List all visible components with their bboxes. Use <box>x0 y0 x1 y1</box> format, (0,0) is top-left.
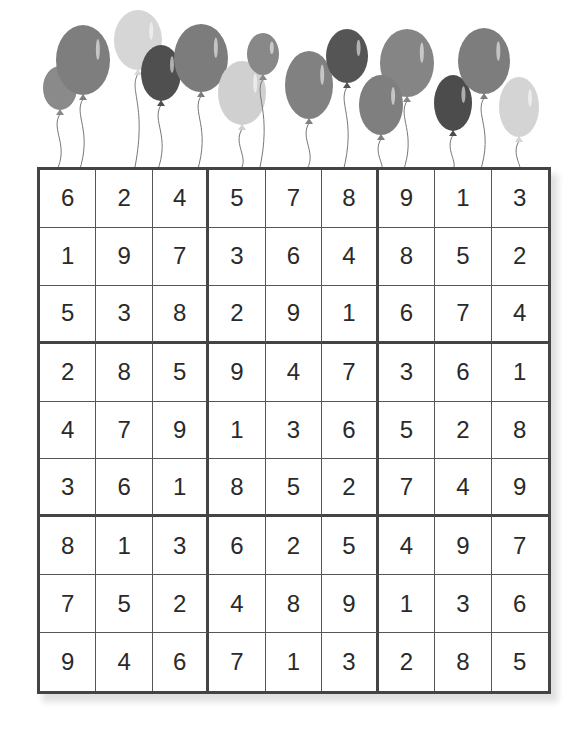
sudoku-cell-r1-c7[interactable]: 9 <box>379 170 435 228</box>
sudoku-cell-r2-c6[interactable]: 4 <box>322 228 378 286</box>
sudoku-cell-r9-c1[interactable]: 9 <box>40 633 96 691</box>
sudoku-cell-r5-c1[interactable]: 4 <box>40 402 96 460</box>
sudoku-cell-r9-c9[interactable]: 5 <box>492 633 548 691</box>
sudoku-cell-r5-c3[interactable]: 9 <box>153 402 209 460</box>
sudoku-cell-r8-c4[interactable]: 4 <box>209 575 265 633</box>
sudoku-cell-r4-c4[interactable]: 9 <box>209 344 265 402</box>
sudoku-cell-r7-c9[interactable]: 7 <box>492 517 548 575</box>
balloons-decoration <box>0 0 574 172</box>
sudoku-cell-r1-c2[interactable]: 2 <box>96 170 152 228</box>
sudoku-cell-r9-c6[interactable]: 3 <box>322 633 378 691</box>
sudoku-cell-r6-c4[interactable]: 8 <box>209 459 265 517</box>
sudoku-cell-r4-c3[interactable]: 5 <box>153 344 209 402</box>
sudoku-cell-r7-c4[interactable]: 6 <box>209 517 265 575</box>
sudoku-cell-r8-c5[interactable]: 8 <box>266 575 322 633</box>
sudoku-cell-r6-c8[interactable]: 4 <box>435 459 491 517</box>
sudoku-cell-r5-c4[interactable]: 1 <box>209 402 265 460</box>
sudoku-cell-r6-c6[interactable]: 2 <box>322 459 378 517</box>
sudoku-cell-r5-c8[interactable]: 2 <box>435 402 491 460</box>
sudoku-cell-r2-c5[interactable]: 6 <box>266 228 322 286</box>
sudoku-cell-r8-c2[interactable]: 5 <box>96 575 152 633</box>
sudoku-cell-r2-c7[interactable]: 8 <box>379 228 435 286</box>
sudoku-cell-r7-c3[interactable]: 3 <box>153 517 209 575</box>
sudoku-cell-r9-c4[interactable]: 7 <box>209 633 265 691</box>
sudoku-cell-r2-c8[interactable]: 5 <box>435 228 491 286</box>
sudoku-cell-r8-c8[interactable]: 3 <box>435 575 491 633</box>
sudoku-cell-r9-c2[interactable]: 4 <box>96 633 152 691</box>
sudoku-cell-r3-c9[interactable]: 4 <box>492 286 548 344</box>
balloon-icon <box>434 75 472 172</box>
sudoku-cell-r3-c8[interactable]: 7 <box>435 286 491 344</box>
sudoku-cell-r6-c9[interactable]: 9 <box>492 459 548 517</box>
sudoku-cell-r8-c6[interactable]: 9 <box>322 575 378 633</box>
sudoku-cell-r9-c8[interactable]: 8 <box>435 633 491 691</box>
sudoku-cell-r9-c5[interactable]: 1 <box>266 633 322 691</box>
sudoku-cell-r7-c8[interactable]: 9 <box>435 517 491 575</box>
balloon-icon <box>499 77 539 172</box>
sudoku-cell-r1-c1[interactable]: 6 <box>40 170 96 228</box>
sudoku-cell-r5-c9[interactable]: 8 <box>492 402 548 460</box>
sudoku-cell-r7-c1[interactable]: 8 <box>40 517 96 575</box>
sudoku-cell-r6-c2[interactable]: 6 <box>96 459 152 517</box>
sudoku-cell-r2-c9[interactable]: 2 <box>492 228 548 286</box>
sudoku-cell-r6-c1[interactable]: 3 <box>40 459 96 517</box>
sudoku-cell-r3-c7[interactable]: 6 <box>379 286 435 344</box>
sudoku-grid: 6245789131973648525382916742859473614791… <box>37 167 551 694</box>
sudoku-cell-r7-c7[interactable]: 4 <box>379 517 435 575</box>
sudoku-cell-r5-c6[interactable]: 6 <box>322 402 378 460</box>
sudoku-cell-r7-c2[interactable]: 1 <box>96 517 152 575</box>
sudoku-cell-r6-c3[interactable]: 1 <box>153 459 209 517</box>
sudoku-cell-r8-c3[interactable]: 2 <box>153 575 209 633</box>
sudoku-cell-r3-c5[interactable]: 9 <box>266 286 322 344</box>
sudoku-cell-r9-c3[interactable]: 6 <box>153 633 209 691</box>
balloon-icon <box>218 61 266 172</box>
sudoku-cell-r2-c3[interactable]: 7 <box>153 228 209 286</box>
sudoku-cell-r6-c5[interactable]: 5 <box>266 459 322 517</box>
sudoku-cell-r2-c2[interactable]: 9 <box>96 228 152 286</box>
sudoku-cell-r5-c5[interactable]: 3 <box>266 402 322 460</box>
sudoku-cell-r7-c6[interactable]: 5 <box>322 517 378 575</box>
sudoku-cell-r8-c1[interactable]: 7 <box>40 575 96 633</box>
sudoku-cell-r4-c8[interactable]: 6 <box>435 344 491 402</box>
sudoku-cell-r4-c2[interactable]: 8 <box>96 344 152 402</box>
sudoku-cell-r1-c9[interactable]: 3 <box>492 170 548 228</box>
sudoku-cell-r8-c7[interactable]: 1 <box>379 575 435 633</box>
sudoku-cell-r1-c4[interactable]: 5 <box>209 170 265 228</box>
sudoku-cell-r6-c7[interactable]: 7 <box>379 459 435 517</box>
sudoku-cell-r5-c7[interactable]: 5 <box>379 402 435 460</box>
sudoku-cell-r7-c5[interactable]: 2 <box>266 517 322 575</box>
sudoku-cell-r4-c7[interactable]: 3 <box>379 344 435 402</box>
sudoku-cell-r1-c3[interactable]: 4 <box>153 170 209 228</box>
sudoku-cell-r3-c3[interactable]: 8 <box>153 286 209 344</box>
sudoku-cell-r4-c5[interactable]: 4 <box>266 344 322 402</box>
sudoku-cell-r2-c4[interactable]: 3 <box>209 228 265 286</box>
sudoku-cell-r3-c1[interactable]: 5 <box>40 286 96 344</box>
sudoku-cell-r1-c6[interactable]: 8 <box>322 170 378 228</box>
balloon-icon <box>285 51 333 172</box>
sudoku-cell-r9-c7[interactable]: 2 <box>379 633 435 691</box>
sudoku-cell-r3-c6[interactable]: 1 <box>322 286 378 344</box>
sudoku-cell-r3-c4[interactable]: 2 <box>209 286 265 344</box>
sudoku-cell-r4-c9[interactable]: 1 <box>492 344 548 402</box>
sudoku-cell-r4-c6[interactable]: 7 <box>322 344 378 402</box>
sudoku-cell-r2-c1[interactable]: 1 <box>40 228 96 286</box>
sudoku-cell-r3-c2[interactable]: 3 <box>96 286 152 344</box>
sudoku-cell-r1-c5[interactable]: 7 <box>266 170 322 228</box>
sudoku-cell-r5-c2[interactable]: 7 <box>96 402 152 460</box>
sudoku-cell-r8-c9[interactable]: 6 <box>492 575 548 633</box>
sudoku-cell-r4-c1[interactable]: 2 <box>40 344 96 402</box>
balloon-icon <box>359 75 403 172</box>
sudoku-cell-r1-c8[interactable]: 1 <box>435 170 491 228</box>
